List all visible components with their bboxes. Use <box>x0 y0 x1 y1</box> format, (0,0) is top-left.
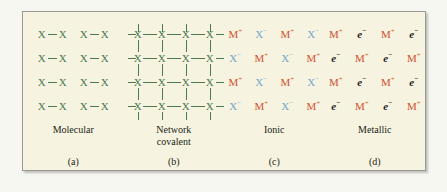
panel-network-covalent: XXXXXXXXXXXXXXXX Network covalent (b) <box>124 12 225 170</box>
charge-superscript: − <box>263 75 267 83</box>
bond-line <box>48 34 57 35</box>
network-bond-horizontal <box>143 106 157 107</box>
electron-species: e− <box>352 28 371 40</box>
charge-superscript: − <box>388 99 392 107</box>
network-atom: X <box>206 29 214 40</box>
network-bond-vertical <box>138 88 139 100</box>
molecule-pair: XX <box>38 76 67 88</box>
network-atom: X <box>206 101 214 112</box>
anion-species: X− <box>252 76 271 88</box>
molecule-pair: XX <box>38 52 67 64</box>
cation-species: M+ <box>226 76 245 88</box>
network-bond-edge-vertical <box>186 112 187 120</box>
charge-superscript: + <box>290 75 294 83</box>
charge-superscript: − <box>237 99 241 107</box>
lattice-row: e−M+e−M+ <box>326 52 423 64</box>
panel-title: Metallic <box>325 124 426 136</box>
cation-species: M+ <box>226 28 245 40</box>
network-bond-vertical <box>162 88 163 100</box>
lattice-row: X−M+X−M+ <box>226 100 323 112</box>
network-bond-vertical <box>210 88 211 100</box>
charge-superscript: − <box>336 51 340 59</box>
charge-superscript: − <box>388 51 392 59</box>
network-bond-horizontal <box>143 58 157 59</box>
lattice-row: M+e−M+e− <box>326 28 423 40</box>
network-bond-horizontal <box>167 34 181 35</box>
network-atom: X <box>158 77 166 88</box>
cation-species: M+ <box>278 28 297 40</box>
charge-superscript: + <box>391 27 395 35</box>
charge-superscript: − <box>362 27 366 35</box>
network-bond-edge-vertical <box>138 112 139 120</box>
charge-superscript: + <box>264 51 268 59</box>
bond-line <box>90 58 99 59</box>
lattice-row: XX XX <box>38 52 109 64</box>
network-bond-edge-horizontal <box>216 106 224 107</box>
network-bond-horizontal <box>191 106 205 107</box>
cation-species: M+ <box>352 52 371 64</box>
network-bond-vertical <box>138 64 139 76</box>
network-atom: X <box>134 53 142 64</box>
network-atom: X <box>158 101 166 112</box>
charge-superscript: + <box>238 27 242 35</box>
network-atom: X <box>182 101 190 112</box>
anion-species: X− <box>304 76 323 88</box>
lattice-row: e−M+e−M+ <box>326 100 423 112</box>
charge-superscript: + <box>365 51 369 59</box>
network-bond-horizontal <box>143 34 157 35</box>
network-bond-vertical <box>210 64 211 76</box>
panel-ionic: M+X−M+X−X−M+X−M+M+X−M+X−X−M+X−M+ Ionic (… <box>224 12 325 170</box>
panel-letter: (c) <box>224 156 325 168</box>
molecule-pair: XX <box>80 28 109 40</box>
charge-superscript: − <box>414 75 418 83</box>
charge-superscript: + <box>417 99 421 107</box>
anion-species: X− <box>304 28 323 40</box>
network-bond-horizontal <box>143 82 157 83</box>
cation-species: M+ <box>326 76 345 88</box>
electron-species: e− <box>352 76 371 88</box>
charge-superscript: − <box>289 51 293 59</box>
charge-superscript: + <box>339 27 343 35</box>
charge-superscript: + <box>238 75 242 83</box>
charge-superscript: − <box>315 27 319 35</box>
molecule-pair: XX <box>80 76 109 88</box>
charge-superscript: − <box>362 75 366 83</box>
cation-species: M+ <box>304 100 323 112</box>
anion-species: X− <box>226 52 245 64</box>
network-bond-edge-horizontal <box>216 82 224 83</box>
charge-superscript: + <box>339 75 343 83</box>
cation-species: M+ <box>252 100 271 112</box>
anion-species: X− <box>278 52 297 64</box>
lattice-row: XX XX <box>38 28 109 40</box>
network-bond-vertical <box>186 88 187 100</box>
network-atom: X <box>158 53 166 64</box>
network-atom: X <box>182 53 190 64</box>
network-bond-edge-horizontal <box>216 34 224 35</box>
network-atom: X <box>158 29 166 40</box>
network-bond-horizontal <box>191 58 205 59</box>
electron-species: e− <box>404 76 423 88</box>
cation-species: M+ <box>326 28 345 40</box>
charge-superscript: − <box>414 27 418 35</box>
anion-species: X− <box>278 100 297 112</box>
network-bond-horizontal <box>167 106 181 107</box>
bond-line <box>48 82 57 83</box>
network-bond-vertical <box>162 40 163 52</box>
network-bond-horizontal <box>167 58 181 59</box>
electron-species: e− <box>404 28 423 40</box>
ionic-lattice: M+X−M+X−X−M+X−M+M+X−M+X−X−M+X−M+ <box>226 28 323 112</box>
network-atom: X <box>182 29 190 40</box>
network-atom: X <box>206 77 214 88</box>
panel-letter: (b) <box>124 156 225 168</box>
panel-title: Molecular <box>23 124 124 136</box>
network-atom: X <box>134 29 142 40</box>
network-bond-vertical <box>138 40 139 52</box>
network-bond-vertical <box>186 40 187 52</box>
lattice-row: X−M+X−M+ <box>226 52 323 64</box>
network-bond-horizontal <box>167 82 181 83</box>
panel-letter: (d) <box>325 156 426 168</box>
charge-superscript: − <box>237 51 241 59</box>
molecule-pair: XX <box>80 100 109 112</box>
figure-frame: XX XX XX XX XX XX XX XX Molecular (a) <box>22 11 426 171</box>
cation-species: M+ <box>304 52 323 64</box>
